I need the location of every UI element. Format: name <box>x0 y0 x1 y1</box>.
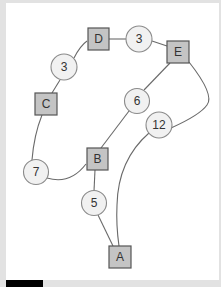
weight-label: 3 <box>136 32 143 46</box>
node-a: A <box>109 246 131 268</box>
weight-ba: 5 <box>82 191 107 216</box>
edge-b-w6 <box>101 111 129 148</box>
edge-d-w3-left <box>74 41 87 58</box>
edge-w7-b <box>47 164 86 180</box>
edge-c-w7 <box>32 115 42 160</box>
weight-de: 3 <box>126 26 152 52</box>
weight-be: 6 <box>125 89 150 114</box>
edge-e-w12 <box>171 62 209 128</box>
weight-label: 5 <box>91 196 98 210</box>
weight-ea: 12 <box>146 112 172 138</box>
edge-w5-a <box>98 215 113 246</box>
edge-w6-e <box>144 63 170 90</box>
node-b: B <box>87 148 108 170</box>
edge-w3-c <box>52 80 60 93</box>
node-label: A <box>116 250 124 264</box>
node-d: D <box>88 28 109 50</box>
weight-label: 3 <box>61 60 68 74</box>
weight-nodes: 3 3 7 6 12 5 <box>24 26 173 216</box>
node-label: E <box>174 45 182 59</box>
weight-label: 12 <box>152 118 166 132</box>
edge-b-w5 <box>94 170 95 191</box>
node-label: D <box>94 32 103 46</box>
weight-label: 6 <box>134 94 141 108</box>
node-c: C <box>35 93 57 115</box>
node-label: B <box>93 152 101 166</box>
weight-dc: 3 <box>51 54 77 80</box>
graph-svg: 3 3 7 6 12 5 A B <box>0 0 221 287</box>
edge-w3-e <box>152 41 167 46</box>
weight-cb: 7 <box>24 160 49 185</box>
node-label: C <box>42 97 51 111</box>
node-e: E <box>167 41 189 63</box>
edge-w12-a <box>117 133 149 246</box>
weight-label: 7 <box>33 165 40 179</box>
